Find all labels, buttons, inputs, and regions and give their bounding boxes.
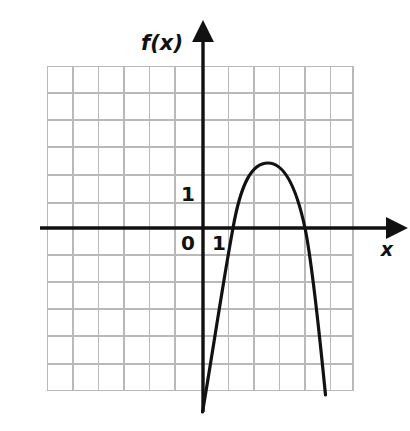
graph-figure: f(x) x 1 0 1 (0, 0, 410, 431)
coordinate-plane-svg: f(x) x 1 0 1 (0, 0, 410, 431)
x-axis-label: x (380, 238, 394, 260)
y-tick-label-1: 1 (181, 182, 195, 206)
function-curve (203, 163, 326, 412)
origin-tick-label: 0 (181, 231, 195, 255)
x-tick-label-1: 1 (212, 231, 226, 255)
y-axis-label: f(x) (141, 31, 183, 55)
